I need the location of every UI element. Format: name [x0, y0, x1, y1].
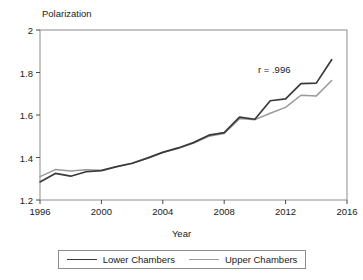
legend-label-lower-chambers: Lower Chambers — [103, 254, 175, 265]
chart-legend: Lower Chambers Upper Chambers — [58, 250, 306, 269]
x-axis-tick-label: 2008 — [214, 206, 235, 217]
y-axis-tick-label: 1.6 — [5, 110, 33, 121]
x-axis-title: Year — [0, 228, 363, 239]
series-line-lower-chambers — [40, 60, 332, 182]
x-axis-tick-label: 2004 — [152, 206, 173, 217]
correlation-annotation: r = .996 — [258, 64, 290, 75]
legend-item-upper-chambers: Upper Chambers — [189, 254, 297, 265]
y-axis-tick-label: 1.8 — [5, 67, 33, 78]
series-line-upper-chambers — [40, 81, 332, 177]
y-axis-tick-label: 2 — [5, 25, 33, 36]
legend-swatch-upper-chambers — [189, 259, 219, 260]
y-axis-tick-label: 1.2 — [5, 195, 33, 206]
x-axis-tick-label: 2012 — [275, 206, 296, 217]
plot-frame — [40, 30, 347, 200]
legend-swatch-lower-chambers — [67, 259, 97, 260]
y-axis-tick-label: 1.4 — [5, 152, 33, 163]
x-axis-tick-label: 1996 — [29, 206, 50, 217]
x-axis-tick-label: 2016 — [336, 206, 357, 217]
x-axis-tick-label: 2000 — [91, 206, 112, 217]
legend-item-lower-chambers: Lower Chambers — [67, 254, 175, 265]
legend-label-upper-chambers: Upper Chambers — [225, 254, 297, 265]
y-axis-title: Polarization — [42, 8, 92, 19]
polarization-line-chart: Polarization 1.21.41.61.82 Year Lower Ch… — [0, 0, 363, 280]
